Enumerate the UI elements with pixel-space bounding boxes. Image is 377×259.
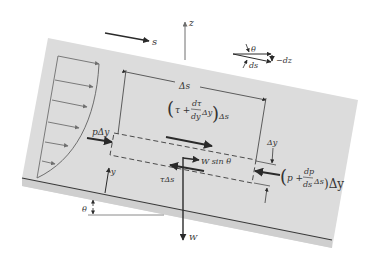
- inset-dz-label: −dz: [276, 56, 293, 65]
- top-shear-tau: τ +: [175, 105, 190, 115]
- z-axis-label: z: [188, 18, 194, 28]
- inset-ds-label: ds: [249, 61, 258, 70]
- top-shear-den: dy: [191, 112, 201, 121]
- delta-y-label: Δy: [266, 138, 278, 147]
- s-axis-arrow: [105, 33, 149, 41]
- right-pressure-tail: Δs: [313, 177, 324, 186]
- inset-theta-label: θ: [251, 45, 256, 54]
- delta-s-label: Δs: [178, 81, 190, 91]
- top-shear-close: ): [212, 103, 219, 124]
- top-shear-num: dτ: [192, 99, 202, 108]
- right-pressure-p: p +: [287, 173, 303, 183]
- left-pressure-label: pΔy: [92, 127, 110, 137]
- right-pressure-den: ds: [303, 180, 312, 189]
- right-pressure-open-paren: (: [280, 166, 287, 187]
- inclined-flow-diagram: s z θ ds −dz Δs ( τ + dτ dy Δy ) Δs pΔy …: [0, 0, 377, 259]
- right-pressure-num: dp: [304, 167, 314, 176]
- top-shear-delta-s: Δs: [218, 112, 229, 121]
- y-axis-label: y: [110, 167, 116, 176]
- weight-sin-label: W sin θ: [201, 157, 231, 166]
- weight-label: W: [189, 233, 198, 242]
- top-shear-open-paren: (: [167, 98, 174, 119]
- right-pressure-close: )Δy: [324, 177, 344, 191]
- s-axis-label: s: [152, 36, 157, 47]
- bottom-shear-label: τΔs: [160, 175, 174, 184]
- top-shear-tail: Δy: [201, 108, 213, 117]
- theta-angle-label: θ: [82, 205, 87, 214]
